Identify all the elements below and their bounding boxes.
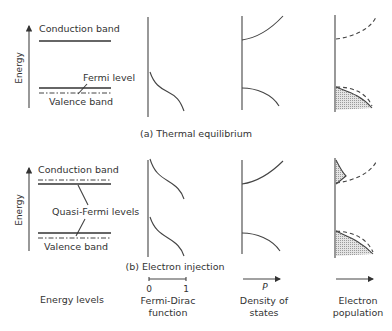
- density-label-line2: states: [249, 307, 278, 318]
- conduction-density-curve: [242, 16, 283, 40]
- conduction-dos-dashed: [336, 17, 376, 39]
- population-label-line2: population: [333, 307, 384, 318]
- valence-density-curve-b: [242, 233, 280, 251]
- valence-density-curve: [242, 88, 279, 106]
- column-labels: Energy levels 0 1 Fermi-Dirac function P…: [40, 277, 383, 318]
- fermi-dirac-curve-upper: [150, 159, 184, 199]
- panel-b-electron-injection: Energy Conduction band Quasi-Fermi level…: [14, 158, 376, 272]
- quasi-fermi-levels-label: Quasi-Fermi levels: [52, 206, 139, 217]
- fermi-dirac-tick-0: 0: [146, 284, 152, 294]
- density-label-line1: Density of: [240, 295, 289, 306]
- fermi-dirac-label-line1: Fermi-Dirac: [141, 295, 196, 306]
- valence-band-label: Valence band: [49, 96, 113, 107]
- valence-population-shaded: [336, 87, 372, 110]
- density-axis-symbol: P: [262, 282, 268, 292]
- fermi-dirac-curve: [150, 72, 184, 111]
- quasi-fermi-pointer-upper: [78, 185, 88, 205]
- panel-a-thermal-equilibrium: Energy Conduction band Fermi level Valen…: [14, 15, 376, 139]
- energy-levels-label: Energy levels: [40, 294, 104, 305]
- fermi-dirac-curve-lower: [150, 217, 184, 256]
- population-label-line1: Electron: [339, 295, 378, 306]
- valence-band-label-b: Valence band: [44, 241, 108, 252]
- energy-axis-label: Energy: [14, 52, 24, 84]
- energy-axis-label-b: Energy: [14, 194, 24, 226]
- fermi-level-label: Fermi level: [83, 72, 135, 83]
- band-diagram-figure: Energy Conduction band Fermi level Valen…: [0, 0, 392, 331]
- fermi-dirac-tick-1: 1: [183, 284, 189, 294]
- caption-thermal-equilibrium: (a) Thermal equilibrium: [140, 128, 252, 139]
- conduction-band-label-b: Conduction band: [38, 164, 119, 175]
- conduction-density-curve-b: [242, 161, 283, 184]
- fermi-dirac-label-line2: function: [149, 307, 188, 318]
- valence-population-shaded-b: [336, 231, 373, 256]
- conduction-band-label: Conduction band: [39, 23, 120, 34]
- caption-electron-injection: (b) Electron injection: [125, 261, 224, 272]
